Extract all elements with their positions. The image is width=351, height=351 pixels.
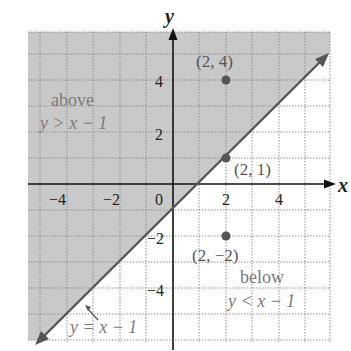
tick-y-neg4: −4 <box>147 283 164 299</box>
tick-y-4: 4 <box>155 74 163 90</box>
point-label-2-neg2: (2, −2) <box>192 247 238 264</box>
point-2-4 <box>222 76 231 85</box>
x-axis-label: x <box>338 175 348 195</box>
tick-x-2: 2 <box>222 192 230 208</box>
point-2-1 <box>222 154 231 163</box>
tick-x-4: 4 <box>275 192 283 208</box>
tick-zero: 0 <box>155 192 163 208</box>
tick-x-neg2: −2 <box>103 192 120 208</box>
point-label-2-1: (2, 1) <box>234 161 271 178</box>
tick-y-neg2: −2 <box>147 231 164 247</box>
y-axis-label: y <box>165 6 174 26</box>
tick-y-2: 2 <box>155 127 163 143</box>
line-equation-label: y = x − 1 <box>70 318 137 336</box>
below-label: below <box>240 268 284 286</box>
point-label-2-4: (2, 4) <box>196 53 233 70</box>
point-2-neg2 <box>222 232 231 241</box>
above-inequality: y > x − 1 <box>40 114 107 132</box>
tick-x-neg4: −4 <box>49 192 66 208</box>
coordinate-plane <box>0 0 351 351</box>
above-label: above <box>51 91 94 109</box>
below-inequality: y < x − 1 <box>228 292 295 310</box>
